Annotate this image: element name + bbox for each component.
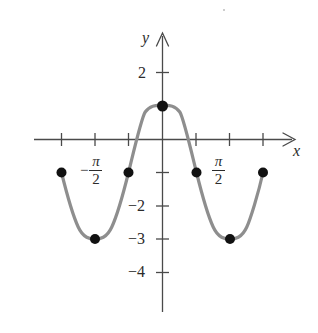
y-tick-label-2: 2 (138, 65, 146, 81)
scan-speck (223, 9, 225, 11)
data-point (192, 168, 202, 178)
minus-sign: − (80, 163, 88, 179)
fraction-stack: π 2 (89, 154, 102, 187)
y-axis-label: y (142, 30, 149, 46)
fraction-numerator: π (91, 154, 101, 169)
data-point (225, 234, 235, 244)
data-point (258, 168, 268, 178)
fraction-denominator: 2 (91, 172, 101, 187)
coordinate-plane (0, 0, 318, 333)
data-point (57, 168, 67, 178)
fraction-numerator: π (214, 154, 224, 169)
fraction-denominator: 2 (214, 172, 224, 187)
y-tick-label-neg4: −4 (128, 264, 145, 280)
x-tick-label-pi-over-2: π 2 (212, 154, 225, 187)
y-tick-label-neg2: −2 (128, 198, 145, 214)
x-axis-label: x (293, 143, 300, 159)
graph-figure: y x 2 −2 −3 −4 − π 2 π 2 (0, 0, 318, 333)
x-tick-label-neg-pi-over-2: − π 2 (80, 154, 102, 187)
fraction-stack: π 2 (212, 154, 225, 187)
data-point (90, 234, 100, 244)
y-tick-label-neg3: −3 (128, 231, 145, 247)
data-point (124, 168, 134, 178)
data-point (157, 101, 168, 112)
